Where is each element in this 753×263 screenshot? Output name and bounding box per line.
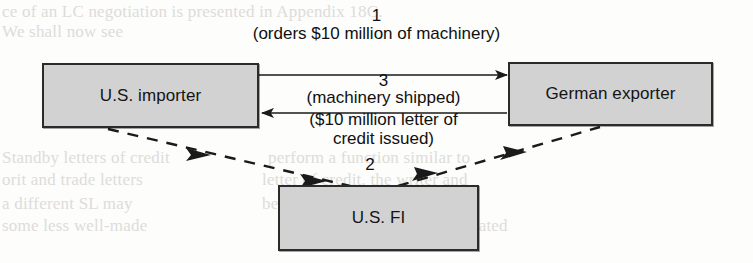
node-us-fi: U.S. FI — [278, 185, 479, 251]
flow-1-step-number: 1 — [0, 6, 753, 25]
node-us-importer: U.S. importer — [42, 63, 259, 128]
arrowhead-importer-to-usfi-upper — [186, 148, 211, 161]
node-german-exporter-label: German exporter — [546, 84, 676, 104]
node-us-fi-label: U.S. FI — [352, 208, 406, 228]
flow-2-description-line1: ($10 million letter of — [259, 110, 508, 130]
flow-3-description: (machinery shipped) — [259, 88, 508, 108]
node-us-importer-label: U.S. importer — [100, 86, 201, 106]
flow-2-step-number: 2 — [340, 155, 400, 174]
flow-1-description: (orders $10 million of machinery) — [0, 24, 753, 44]
flow-2-description-line2: credit issued) — [259, 129, 508, 149]
figure-canvas: ce of an LC negotiation is presented in … — [0, 0, 753, 263]
node-german-exporter: German exporter — [508, 62, 713, 126]
